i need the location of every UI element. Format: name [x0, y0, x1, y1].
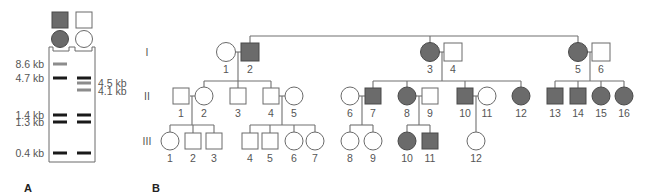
affected-male-lane-symbol: [52, 12, 68, 28]
figure-canvas: 8.6 kb4.7 kb1.4 kb1.3 kb0.4 kb 4.5 kb4.1…: [0, 0, 651, 194]
individual-number: 2: [201, 107, 207, 119]
unaffected-male-lane-symbol: [76, 12, 92, 28]
individual-number: 7: [370, 107, 376, 119]
affected-female-symbol: [421, 43, 440, 62]
individual-III-9: 9: [364, 132, 382, 164]
individual-number: 15: [595, 107, 607, 119]
individual-number: 12: [470, 152, 482, 164]
individual-number: 2: [247, 63, 253, 75]
unaffected-female-symbol: [306, 132, 324, 150]
individual-II-9: 9: [422, 88, 438, 119]
individual-III-1: 1: [161, 132, 179, 164]
panel-b-label: B: [152, 182, 160, 194]
individual-I-1: 1: [217, 43, 236, 76]
generation-label: I: [146, 46, 149, 58]
gel-size-markers-right: 4.5 kb4.1 kb: [98, 77, 127, 97]
unaffected-male-symbol: [206, 133, 222, 149]
affected-male-symbol: [570, 88, 586, 104]
gel-band: [53, 121, 67, 124]
unaffected-male-symbol: [262, 133, 278, 149]
generation-label: III: [143, 135, 152, 147]
individual-II-6: 6: [341, 87, 359, 119]
individual-number: 9: [370, 152, 376, 164]
individual-number: 7: [312, 152, 318, 164]
individual-number: 5: [267, 152, 273, 164]
unaffected-male-symbol: [444, 43, 462, 61]
individual-II-8: 8: [398, 87, 416, 119]
individual-number: 14: [572, 107, 584, 119]
individual-III-11: 11: [422, 133, 438, 164]
affected-male-symbol: [365, 88, 381, 104]
individual-number: 5: [575, 63, 581, 75]
unaffected-female-symbol: [161, 132, 179, 150]
individual-number: 10: [401, 152, 413, 164]
individual-number: 8: [347, 152, 353, 164]
individual-II-7: 7: [365, 88, 381, 119]
individual-III-2: 2: [185, 133, 201, 164]
individual-number: 3: [235, 107, 241, 119]
affected-female-symbol: [615, 87, 633, 105]
individual-number: 16: [618, 107, 630, 119]
affected-male-symbol: [457, 88, 473, 104]
individual-number: 4: [247, 152, 253, 164]
individual-number: 6: [347, 107, 353, 119]
affected-male-symbol: [241, 43, 259, 61]
unaffected-female-symbol: [364, 132, 382, 150]
individual-number: 6: [598, 63, 604, 75]
individual-I-6: 6: [592, 43, 610, 75]
affected-female-symbol: [398, 87, 416, 105]
gel-band: [77, 82, 91, 85]
individual-III-7: 7: [306, 132, 324, 164]
size-marker-label: 4.7 kb: [15, 72, 44, 84]
individual-number: 9: [427, 107, 433, 119]
individual-number: 1: [167, 152, 173, 164]
unaffected-female-symbol: [341, 132, 359, 150]
individual-II-15: 15: [592, 87, 610, 119]
unaffected-male-symbol: [263, 88, 279, 104]
individual-I-2: 2: [241, 43, 259, 75]
individual-number: 12: [515, 107, 527, 119]
affected-female-symbol: [569, 43, 588, 62]
individual-number: 1: [223, 63, 229, 75]
unaffected-female-symbol: [285, 132, 303, 150]
generation-label: II: [144, 90, 150, 102]
individual-number: 5: [291, 107, 297, 119]
affected-male-symbol: [422, 133, 438, 149]
unaffected-female-symbol: [478, 87, 496, 105]
individual-II-12: 12: [512, 87, 530, 119]
size-marker-label: 0.4 kb: [15, 147, 44, 159]
individual-II-1: 1: [173, 88, 189, 119]
individual-number: 2: [190, 152, 196, 164]
unaffected-male-symbol: [230, 88, 246, 104]
gel-band: [77, 89, 91, 92]
individual-I-5: 5: [569, 43, 588, 76]
size-marker-label: 8.6 kb: [15, 58, 44, 70]
individual-number: 1: [178, 107, 184, 119]
individual-II-3: 3: [230, 88, 246, 119]
individual-III-6: 6: [285, 132, 303, 164]
gel-band: [77, 121, 91, 124]
affected-female-symbol: [398, 132, 416, 150]
unaffected-female-symbol: [195, 87, 213, 105]
unaffected-female-symbol: [217, 43, 236, 62]
individual-number: 8: [404, 107, 410, 119]
individual-number: 11: [482, 107, 493, 119]
individual-III-8: 8: [341, 132, 359, 164]
individual-number: 3: [211, 152, 217, 164]
affected-male-symbol: [547, 88, 563, 104]
individual-II-16: 16: [615, 87, 633, 119]
individual-II-11: 11: [478, 87, 496, 119]
unaffected-male-symbol: [422, 88, 438, 104]
affected-female-symbol: [592, 87, 610, 105]
gel-band: [53, 77, 67, 80]
individual-III-10: 10: [398, 132, 416, 164]
individual-number: 6: [291, 152, 297, 164]
individual-II-2: 2: [195, 87, 213, 119]
affected-female-symbol: [512, 87, 530, 105]
gel-lane-symbols: [52, 12, 93, 48]
individual-II-10: 10: [457, 88, 473, 119]
pedigree-individuals: 1234561234567891011121314151612345678910…: [161, 43, 633, 165]
individual-III-4: 4: [242, 133, 258, 164]
individual-I-3: 3: [421, 43, 440, 76]
gel-band: [77, 152, 91, 155]
